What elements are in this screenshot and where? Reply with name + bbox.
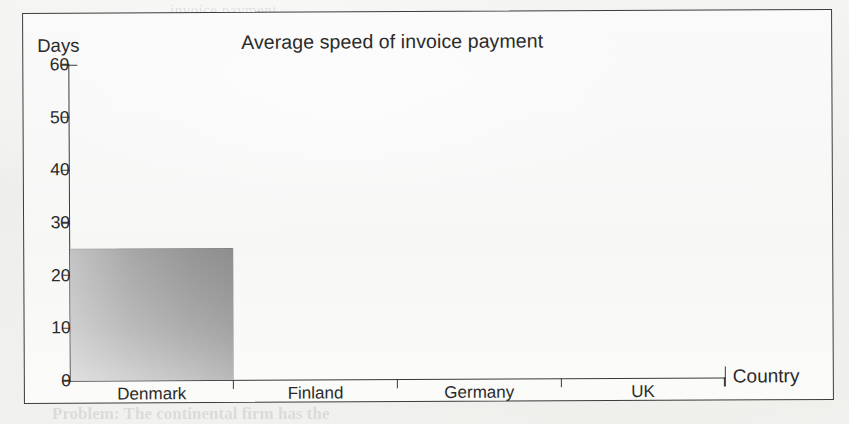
y-tick-label: 50 [24, 107, 70, 128]
y-tick-label: 10 [25, 318, 71, 339]
y-tick-label: 30 [24, 212, 70, 233]
bleed-through-text: Problem: The continental firm has the [52, 404, 330, 424]
scanned-page-background: invoice payment was received by the buye… [0, 0, 849, 424]
y-tick-label: 0 [25, 370, 71, 391]
y-tick-label: 60 [23, 54, 69, 75]
chart-figure-frame: Average speed of invoice payment Days Co… [22, 9, 834, 404]
x-tick-mark [397, 379, 398, 388]
y-axis-end-cap [68, 65, 77, 66]
x-tick-label-denmark: Denmark [117, 384, 186, 404]
bar-denmark [70, 248, 233, 380]
x-axis-title: Country [733, 365, 800, 387]
x-tick-mark [560, 378, 561, 387]
x-axis-ticks: DenmarkFinlandGermanyUK [23, 10, 831, 14]
chart-title: Average speed of invoice payment [23, 28, 831, 55]
y-tick-label: 40 [24, 160, 70, 181]
x-tick-mark [724, 378, 725, 387]
x-tick-label-germany: Germany [444, 383, 514, 403]
y-axis-ticks: 0102030405060 [23, 10, 831, 14]
bar-series [23, 10, 831, 14]
y-tick-label: 20 [24, 265, 70, 286]
x-tick-label-uk: UK [631, 382, 655, 402]
x-tick-mark [233, 380, 234, 389]
bar-chart: Average speed of invoice payment Days Co… [23, 10, 833, 403]
x-tick-label-finland: Finland [288, 383, 344, 403]
